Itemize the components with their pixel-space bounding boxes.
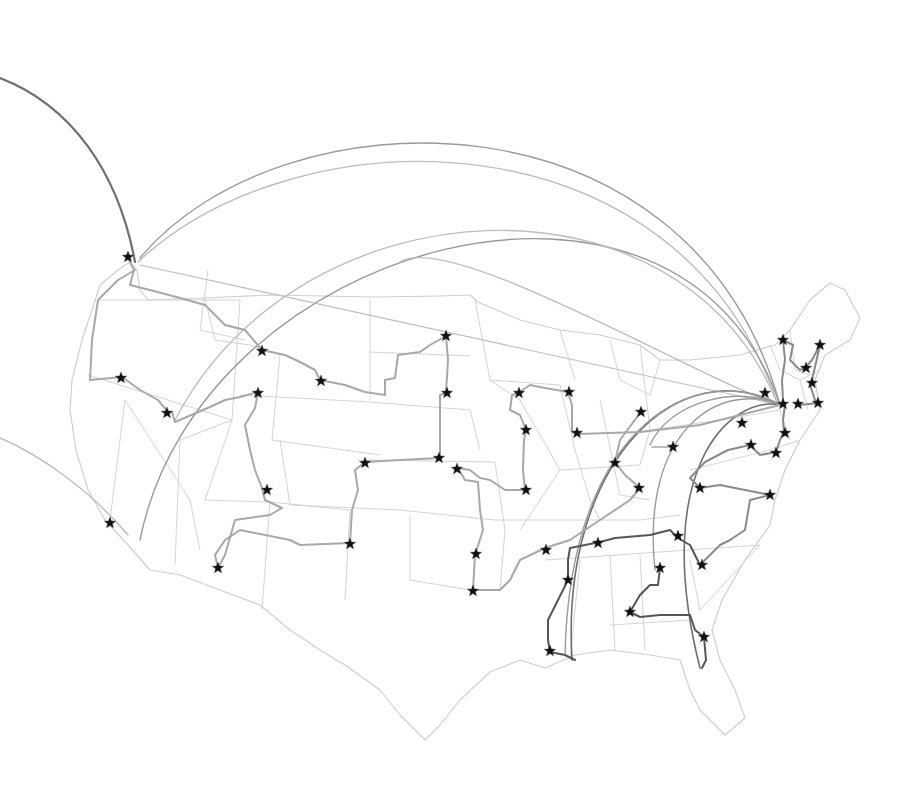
us-route-map (0, 0, 898, 802)
